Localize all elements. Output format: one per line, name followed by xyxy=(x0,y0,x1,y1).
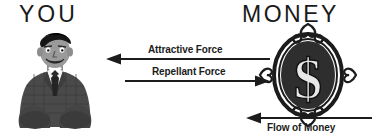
diagram-canvas: YOU MONEY xyxy=(0,0,381,139)
flow-of-money-arrow xyxy=(0,0,381,139)
flow-of-money-label: Flow of Money xyxy=(267,123,335,133)
